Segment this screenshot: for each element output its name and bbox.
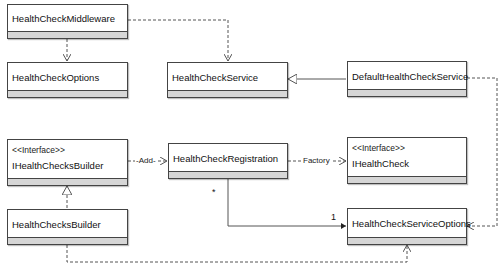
class-name: HealthCheckRegistration bbox=[173, 144, 287, 173]
class-health-check-options[interactable]: HealthCheckOptions bbox=[7, 62, 128, 98]
class-name: HealthCheckOptions bbox=[12, 63, 127, 92]
class-health-check-service[interactable]: HealthCheckService bbox=[167, 62, 288, 98]
class-compartment bbox=[8, 237, 127, 244]
class-health-check-registration[interactable]: HealthCheckRegistration bbox=[168, 143, 288, 179]
stereotype-label: <<Interface>> bbox=[12, 145, 127, 156]
stereotype-label: <<Interface>> bbox=[352, 143, 466, 154]
class-compartment bbox=[348, 89, 466, 96]
class-compartment bbox=[168, 90, 287, 97]
class-compartment bbox=[8, 31, 127, 38]
association-registration-serviceoptions bbox=[228, 179, 346, 226]
class-name: IHealthChecksBuilder bbox=[12, 156, 127, 176]
factory-relation-label: Factory bbox=[302, 156, 331, 165]
class-default-health-check-service[interactable]: DefaultHealthCheckService bbox=[347, 61, 467, 97]
multiplicity-one: 1 bbox=[331, 212, 336, 222]
class-name: HealthCheckService bbox=[172, 63, 287, 92]
add-relation-label: -Add- bbox=[135, 156, 157, 165]
class-compartment bbox=[8, 90, 127, 97]
class-name: IHealthCheck bbox=[352, 154, 466, 174]
class-health-check-service-options[interactable]: HealthCheckServiceOptions bbox=[347, 208, 467, 245]
class-name: DefaultHealthCheckService bbox=[352, 62, 466, 91]
class-health-check-middleware[interactable]: HealthCheckMiddleware bbox=[7, 4, 128, 39]
class-name: HealthChecksBuilder bbox=[12, 210, 127, 239]
interface-ihealth-check[interactable]: <<Interface>> IHealthCheck bbox=[347, 137, 467, 184]
class-compartment bbox=[8, 178, 127, 185]
dependency-default-serviceoptions bbox=[467, 78, 497, 226]
class-compartment bbox=[348, 176, 466, 183]
class-name: HealthCheckServiceOptions bbox=[352, 209, 466, 239]
class-compartment bbox=[348, 237, 466, 244]
dependency-middleware-service bbox=[128, 20, 228, 61]
class-name: HealthCheckMiddleware bbox=[12, 5, 127, 33]
dependency-builder-serviceoptions bbox=[67, 245, 407, 262]
interface-ihealth-checks-builder[interactable]: <<Interface>> IHealthChecksBuilder bbox=[7, 139, 128, 186]
uml-class-diagram: -Add- Factory * 1 HealthCheckMiddleware … bbox=[0, 0, 501, 271]
class-compartment bbox=[169, 171, 287, 178]
class-health-checks-builder[interactable]: HealthChecksBuilder bbox=[7, 209, 128, 245]
multiplicity-many: * bbox=[212, 187, 216, 197]
